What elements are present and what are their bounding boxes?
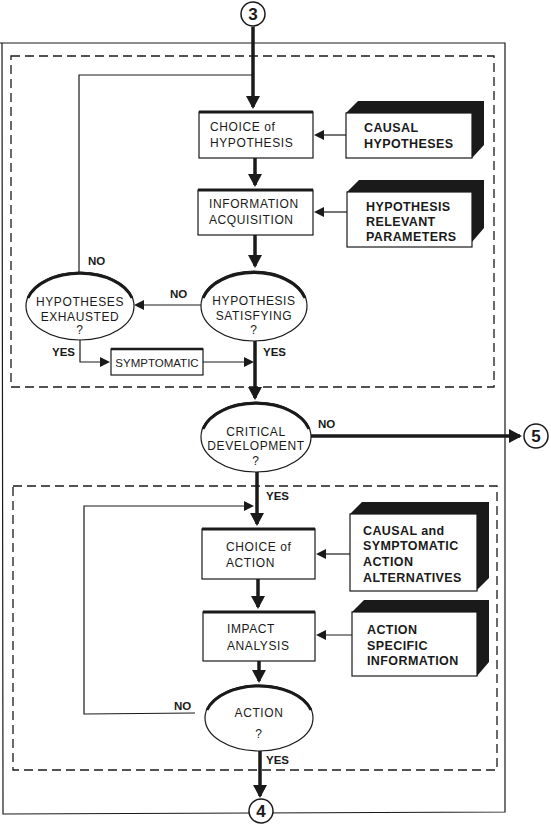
connector-4-label: 4 [256,802,266,821]
impact-analysis-line1: IMPACT [227,622,275,636]
information-acquisition-box[interactable]: INFORMATION ACQUISITION [198,190,313,235]
hypotheses-exhausted-decision[interactable]: HYPOTHESES EXHAUSTED ? [26,272,134,340]
svg-text:?: ? [250,323,257,337]
cd-line1: CRITICAL [226,425,285,439]
flowchart-canvas: 3 CHOICE of HYPOTHESIS INFORMATION ACQUI… [0,0,551,827]
svg-text:HYPOTHESES: HYPOTHESES [36,295,124,309]
impact-analysis-line2: ANALYSIS [227,639,290,653]
no-loop-back-line [79,75,253,272]
choice-of-action-box[interactable]: CHOICE of ACTION [202,529,315,579]
svg-text:CHOICE of: CHOICE of [226,540,291,554]
label-yes: YES [263,346,286,358]
label-no: NO [174,700,191,712]
svg-text:IMPACT: IMPACT [227,622,275,636]
critical-development-decision[interactable]: CRITICAL DEVELOPMENT ? [201,402,311,472]
svg-text:ACTION: ACTION [367,623,417,637]
svg-text:CHOICE of: CHOICE of [210,120,275,134]
svg-text:ALTERNATIVES: ALTERNATIVES [363,571,462,585]
label-no: NO [170,288,187,300]
hrp-line3: PARAMETERS [366,230,457,244]
svg-text:PARAMETERS: PARAMETERS [366,230,457,244]
svg-text:HYPOTHESIS: HYPOTHESIS [212,294,295,308]
svg-text:DEVELOPMENT: DEVELOPMENT [207,439,304,453]
label-no: NO [318,418,335,430]
aa-line1: CAUSAL and [363,524,445,538]
causal-hypotheses-line1: CAUSAL [364,121,418,135]
svg-text:HYPOTHESIS: HYPOTHESIS [210,136,293,150]
connector-3[interactable]: 3 [241,2,265,26]
he-line1: HYPOTHESES [36,295,124,309]
label-yes: YES [266,490,289,502]
choice-of-action-line1: CHOICE of [226,540,291,554]
svg-text:ACQUISITION: ACQUISITION [209,213,294,227]
action-specific-information-input[interactable]: ACTION SPECIFIC INFORMATION [352,600,489,676]
label-yes: YES [266,754,289,766]
svg-text:EXHAUSTED: EXHAUSTED [41,310,120,324]
cd-line3: ? [252,454,259,468]
connector-5-label: 5 [531,427,540,446]
connector-3-label: 3 [248,5,257,24]
svg-text:?: ? [76,323,83,337]
he-line2: EXHAUSTED [41,310,120,324]
svg-text:SATISFYING: SATISFYING [216,309,292,323]
svg-text:HYPOTHESIS: HYPOTHESIS [366,200,451,214]
svg-text:INFORMATION: INFORMATION [367,654,459,668]
svg-text:ANALYSIS: ANALYSIS [227,639,290,653]
svg-text:INFORMATION: INFORMATION [209,197,299,211]
hs-line1: HYPOTHESIS [212,294,295,308]
cd-line2: DEVELOPMENT [207,439,304,453]
action-line2: ? [255,727,262,741]
hypothesis-satisfying-decision[interactable]: HYPOTHESIS SATISFYING ? [201,271,307,341]
svg-text:ACTION: ACTION [226,556,275,570]
action-decision[interactable]: ACTION ? [205,685,313,751]
connector-5[interactable]: 5 [524,424,548,448]
svg-text:SPECIFIC: SPECIFIC [367,639,428,653]
he-line3: ? [76,323,83,337]
hrp-line1: HYPOTHESIS [366,200,451,214]
impact-analysis-box[interactable]: IMPACT ANALYSIS [203,612,315,661]
asi-line1: ACTION [367,623,417,637]
hs-line3: ? [250,323,257,337]
symptomatic-label: SYMPTOMATIC [115,357,198,369]
svg-text:CRITICAL: CRITICAL [226,425,285,439]
information-acquisition-line2: ACQUISITION [209,213,294,227]
causal-hypotheses-input[interactable]: CAUSAL HYPOTHESES [346,101,484,158]
causal-hypotheses-line2: HYPOTHESES [364,137,453,151]
label-yes: YES [52,346,75,358]
symptomatic-box[interactable]: SYMPTOMATIC [111,349,203,375]
choice-of-hypothesis-line2: HYPOTHESIS [210,136,293,150]
label-no: NO [88,255,105,267]
yes-arrow-to-symptomatic [80,340,108,362]
svg-text:CAUSAL and: CAUSAL and [363,524,445,538]
svg-text:CAUSAL: CAUSAL [364,121,418,135]
choice-of-hypothesis-box[interactable]: CHOICE of HYPOTHESIS [199,112,313,158]
asi-line3: INFORMATION [367,654,459,668]
svg-text:ACTION: ACTION [235,706,284,720]
choice-of-action-line2: ACTION [226,556,275,570]
information-acquisition-line1: INFORMATION [209,197,299,211]
svg-text:?: ? [255,727,262,741]
choice-of-hypothesis-line1: CHOICE of [210,120,275,134]
connector-4[interactable]: 4 [249,799,273,823]
hypothesis-relevant-parameters-input[interactable]: HYPOTHESIS RELEVANT PARAMETERS [347,180,484,247]
svg-text:RELEVANT: RELEVANT [366,215,436,229]
hs-line2: SATISFYING [216,309,292,323]
hrp-line2: RELEVANT [366,215,436,229]
action-alternatives-input[interactable]: CAUSAL and SYMPTOMATIC ACTION ALTERNATIV… [350,502,489,591]
svg-text:ACTION: ACTION [363,555,413,569]
svg-text:SYMPTOMATIC: SYMPTOMATIC [363,539,459,553]
svg-text:?: ? [252,454,259,468]
svg-text:HYPOTHESES: HYPOTHESES [364,137,453,151]
aa-line4: ALTERNATIVES [363,571,462,585]
action-line1: ACTION [235,706,284,720]
aa-line2: SYMPTOMATIC [363,539,459,553]
aa-line3: ACTION [363,555,413,569]
asi-line2: SPECIFIC [367,639,428,653]
